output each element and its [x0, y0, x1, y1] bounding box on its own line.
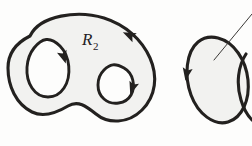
region-label-base: R — [81, 30, 93, 49]
region-label-subscript: 2 — [93, 40, 99, 52]
figure-container: R 2 — [0, 0, 252, 146]
region-diagram: R 2 — [0, 0, 252, 146]
